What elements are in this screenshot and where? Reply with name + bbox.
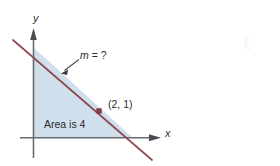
y-axis-arrowhead xyxy=(30,28,37,40)
point-marker-2-1 xyxy=(96,108,101,113)
x-axis-label: x xyxy=(165,128,171,139)
point-coordinate-label: (2, 1) xyxy=(108,99,133,110)
figure-canvas xyxy=(0,0,280,166)
area-label: Area is 4 xyxy=(44,119,85,130)
slope-question-label: m = ? xyxy=(80,50,107,61)
leader-line xyxy=(65,60,80,71)
geometry-figure: y x m = ? (2, 1) Area is 4 ℇ xyxy=(0,0,280,166)
slope-equals-question: = ? xyxy=(89,49,107,61)
x-axis-arrowhead xyxy=(149,134,161,141)
slope-variable-m: m xyxy=(80,49,89,61)
y-axis-label: y xyxy=(33,13,39,24)
